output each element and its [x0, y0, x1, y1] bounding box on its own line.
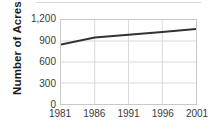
y-tick-label: 300: [18, 79, 56, 89]
top-border-rule: [36, 2, 201, 3]
x-axis-tick-labels: 19811986199119962001: [0, 108, 215, 124]
data-series-line: [61, 20, 196, 104]
y-tick-label: 900: [18, 36, 56, 46]
line-chart: Number of Acres 03006009001,200 19811986…: [0, 0, 215, 138]
y-tick-label: 1,200: [18, 14, 56, 24]
x-tick-label: 2001: [175, 108, 215, 120]
series-polyline: [61, 29, 196, 44]
plot-area: [60, 19, 197, 105]
y-tick-label: 600: [18, 57, 56, 67]
